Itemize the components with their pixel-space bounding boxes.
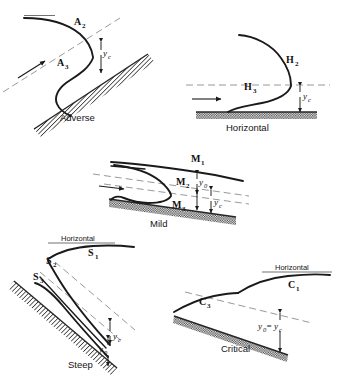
panel-adverse: A 2 A 3 y c Adverse: [3, 16, 155, 138]
gvf-profile-figure: A 2 A 3 y c Adverse H 2 H 3 y c Horizont…: [0, 0, 347, 389]
horizontal-caption: Horizontal: [226, 122, 269, 133]
steep-depth-label-yc: y: [112, 331, 117, 341]
adverse-caption: Adverse: [60, 112, 95, 123]
horizontal-profile-sub-h3: 3: [253, 87, 257, 95]
critical-depth-equals-sign: =: [266, 321, 272, 331]
horizontal-depth-label-yc: y: [302, 91, 307, 101]
panel-steep: Horizontal S 1 S 2 S 3 y c y 0 Steep: [8, 234, 135, 375]
mild-profile-sub-m3: 3: [182, 205, 186, 213]
critical-depth-label-yc: y: [273, 321, 278, 331]
critical-profile-c1-curve: [238, 274, 330, 293]
steep-profile-s2-curve: [48, 261, 110, 345]
critical-horizontal-reference: Horizontal: [262, 263, 332, 272]
adverse-profile-sub-a3: 3: [65, 63, 69, 71]
steep-profile-label-s2: S: [46, 255, 52, 266]
steep-profile-label-s1: S: [88, 247, 94, 258]
adverse-depth-sub-yc: c: [108, 53, 111, 60]
critical-depth-equality-label: y 0 = y c: [257, 321, 282, 333]
adverse-profile-sub-a2: 2: [82, 22, 86, 30]
steep-critical-depth-line: [55, 262, 135, 330]
critical-profile-label-c3: C: [199, 296, 206, 307]
adverse-depth-label-yc: y: [102, 48, 107, 58]
adverse-flow-arrow: [18, 61, 45, 78]
steep-profile-sub-s2: 2: [53, 261, 57, 269]
horizontal-profile-sub-h2: 2: [295, 60, 299, 68]
adverse-profile-label-a2: A: [74, 16, 82, 27]
mild-profile-label-m2: M: [176, 176, 186, 187]
mild-profile-sub-m1: 1: [201, 159, 205, 167]
figure-canvas: A 2 A 3 y c Adverse H 2 H 3 y c Horizont…: [0, 0, 347, 389]
steep-depth-label-y0: y: [98, 344, 103, 354]
critical-caption: Critical: [221, 343, 250, 354]
panel-mild: M 1 M 2 M 3 y 0 y c Mild: [93, 153, 249, 229]
horizontal-channel-bed: [196, 112, 317, 119]
steep-caption: Steep: [68, 359, 93, 370]
critical-profile-sub-c1: 1: [296, 285, 300, 293]
mild-depth-label-yc: y: [213, 197, 218, 207]
horizontal-profile-label-h3: H: [244, 81, 252, 92]
critical-profile-sub-c3: 3: [207, 302, 211, 310]
horizontal-profile-h2-curve: [239, 35, 291, 85]
mild-depth-sub-yc: c: [219, 202, 222, 209]
mild-depth-sub-y0: 0: [204, 182, 208, 189]
mild-depth-label-y0: y: [198, 177, 203, 187]
steep-normal-depth-line: [40, 272, 124, 343]
critical-horizontal-label: Horizontal: [275, 263, 309, 272]
steep-horizontal-reference: Horizontal: [48, 234, 115, 243]
panel-horizontal: H 2 H 3 y c Horizontal: [186, 35, 330, 133]
mild-profile-label-m1: M: [191, 153, 201, 164]
critical-depth-sub-yc: c: [279, 326, 282, 333]
critical-depth-label-y0: y: [257, 321, 262, 331]
mild-profile-sub-m2: 2: [186, 182, 190, 190]
steep-profile-sub-s3: 3: [40, 277, 44, 285]
mild-profile-m2-curve: [114, 165, 171, 195]
mild-caption: Mild: [150, 218, 167, 229]
adverse-channel-bed: [34, 54, 155, 137]
steep-channel-bed: [8, 281, 117, 375]
horizontal-depth-sub-yc: c: [308, 96, 311, 103]
adverse-profile-label-a3: A: [57, 57, 65, 68]
horizontal-profile-h3-curve: [228, 86, 291, 112]
steep-profile-sub-s1: 1: [95, 253, 99, 261]
panel-critical: Horizontal C 1 C 3 y 0 = y c Critical: [173, 263, 332, 362]
critical-profile-label-c1: C: [288, 279, 295, 290]
steep-horizontal-label: Horizontal: [61, 234, 95, 243]
steep-depth-sub-yc: c: [118, 336, 121, 343]
steep-profile-label-s3: S: [33, 271, 39, 282]
mild-profile-label-m3: M: [172, 199, 182, 210]
horizontal-profile-label-h2: H: [286, 54, 294, 65]
